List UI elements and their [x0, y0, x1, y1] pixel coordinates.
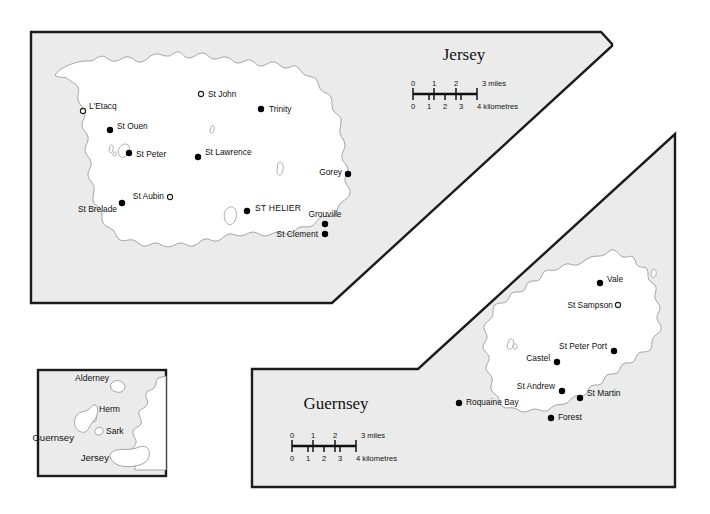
marker-dot-icon — [345, 171, 351, 177]
inset-label-jersey: Jersey — [81, 452, 109, 463]
marker-dot-icon — [322, 231, 328, 237]
inset-island-sark — [95, 427, 103, 435]
place-label-st-andrew: St Andrew — [517, 381, 556, 391]
marker-dot-icon — [258, 106, 264, 112]
jersey-scale-mile-1: 1 — [432, 79, 436, 88]
guernsey-panel-title: Guernsey — [303, 394, 369, 413]
place-label-st-sampson: St Sampson — [567, 300, 613, 310]
jersey-panel-title: Jersey — [443, 45, 486, 64]
guernsey-scale-mile-1: 1 — [311, 431, 315, 440]
guernsey-scale-mile-2: 2 — [333, 431, 337, 440]
jersey-scale-km-2: 2 — [443, 102, 447, 111]
place-label-grouville: Grouville — [308, 209, 341, 219]
marker-open-icon — [167, 194, 172, 199]
jersey-scale-miles-label: 3 miles — [482, 79, 506, 88]
place-label-st-helier: ST HELIER — [255, 203, 301, 213]
place-label-st-peter: St Peter — [136, 149, 166, 159]
jersey-scale-km-3: 3 — [459, 102, 463, 111]
marker-dot-icon — [554, 359, 560, 365]
marker-dot-icon — [126, 150, 132, 156]
jersey-islet-west-b — [113, 152, 116, 156]
guernsey-scale-mile-0: 0 — [290, 431, 294, 440]
place-label-st-peter-port: St Peter Port — [559, 341, 608, 351]
marker-dot-icon — [119, 200, 125, 206]
jersey-scale-km-0: 0 — [411, 102, 415, 111]
inset-label-herm: Herm — [99, 404, 120, 414]
marker-dot-icon — [548, 415, 554, 421]
jersey-scale-km-label: 4 kilometres — [477, 102, 518, 111]
guernsey-place-roquaine-bay: Roquaine Bay — [456, 397, 520, 407]
place-label-gorey: Gorey — [319, 167, 343, 177]
marker-dot-icon — [577, 395, 583, 401]
jersey-islet-west-a — [109, 145, 113, 153]
locator-inset-panel: Alderney Herm Sark Guernsey Jersey — [32, 370, 166, 476]
marker-open-icon — [615, 302, 620, 307]
marker-dot-icon — [195, 154, 201, 160]
guernsey-scale-km-label: 4 kilometres — [356, 454, 397, 463]
marker-dot-icon — [244, 208, 250, 214]
guernsey-scale-km-3: 3 — [338, 454, 342, 463]
place-label-st-aubin: St Aubin — [133, 191, 165, 201]
place-label-vale: Vale — [607, 274, 623, 284]
place-label-st-martin: St Martin — [587, 388, 621, 398]
inset-label-alderney: Alderney — [75, 373, 110, 383]
marker-dot-icon — [107, 127, 113, 133]
marker-open-icon — [198, 91, 203, 96]
place-label-st-ouen: St Ouen — [117, 121, 148, 131]
place-label-st-lawrence: St Lawrence — [205, 147, 252, 157]
guernsey-place-st-sampson: St Sampson — [567, 300, 620, 310]
jersey-bay-islet — [224, 207, 236, 225]
jersey-scale-mile-0: 0 — [411, 79, 415, 88]
jersey-islet-central — [277, 162, 283, 175]
marker-dot-icon — [597, 280, 603, 286]
guernsey-islet-b — [513, 344, 517, 349]
marker-dot-icon — [559, 388, 565, 394]
map-figure: St John Trinity L'Etacq St Ouen St Peter… — [0, 0, 710, 514]
guernsey-scale-km-0: 0 — [290, 454, 294, 463]
guernsey-scale-km-1: 1 — [306, 454, 310, 463]
place-label-letacq: L'Etacq — [89, 101, 117, 111]
guernsey-scale-miles-label: 3 miles — [361, 431, 385, 440]
inset-label-sark: Sark — [106, 426, 124, 436]
place-label-roquaine-bay: Roquaine Bay — [466, 397, 519, 407]
place-label-st-john: St John — [208, 89, 237, 99]
jersey-scale-mile-2: 2 — [454, 79, 458, 88]
marker-open-icon — [80, 108, 85, 113]
marker-dot-icon — [456, 400, 462, 406]
place-label-forest: Forest — [558, 412, 582, 422]
jersey-scale-km-1: 1 — [427, 102, 431, 111]
place-label-st-clement: St Clement — [277, 229, 319, 239]
inset-island-alderney — [111, 381, 125, 393]
guernsey-scale-km-2: 2 — [322, 454, 326, 463]
guernsey-islet-north — [651, 269, 656, 277]
place-label-castel: Castel — [526, 353, 550, 363]
inset-label-guernsey: Guernsey — [32, 432, 74, 443]
marker-dot-icon — [611, 348, 617, 354]
place-label-trinity: Trinity — [269, 104, 292, 114]
marker-dot-icon — [322, 221, 328, 227]
place-label-st-brelade: St Brelade — [78, 204, 117, 214]
